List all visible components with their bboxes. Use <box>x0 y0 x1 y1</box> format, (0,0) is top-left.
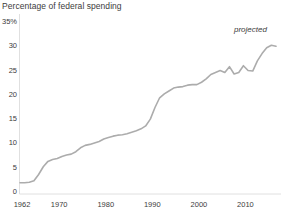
projected-annotation: projected <box>234 25 267 34</box>
annotation-layer: projected <box>0 0 283 223</box>
chart-container: Percentage of federal spending 35%302520… <box>0 0 283 223</box>
